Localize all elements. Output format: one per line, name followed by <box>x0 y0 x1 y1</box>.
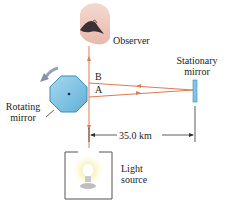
rotating-mirror-label: Rotating mirror <box>0 101 46 123</box>
stationary-mirror-label: Stationary mirror <box>168 55 226 77</box>
observer-label: Observer <box>113 35 150 46</box>
label-pointer <box>46 110 54 117</box>
point-a-label: A <box>95 84 102 95</box>
rotating-mirror-label-line2: mirror <box>0 112 46 123</box>
light-source-label: Light source <box>121 163 147 185</box>
light-source-label-line1: Light <box>121 163 147 174</box>
point-b-label: B <box>95 71 102 82</box>
stationary-mirror-label-line2: mirror <box>168 66 226 77</box>
light-bulb-icon <box>72 156 104 189</box>
distance-label: 35.0 km <box>119 130 152 141</box>
light-source-label-line2: source <box>121 174 147 185</box>
stationary-mirror-icon <box>193 80 197 102</box>
octagonal-mirror-icon <box>50 76 87 112</box>
stationary-mirror-label-line1: Stationary <box>168 55 226 66</box>
rotating-mirror-label-line1: Rotating <box>0 101 46 112</box>
eye-icon <box>80 3 110 44</box>
rotation-arrow-icon <box>40 68 58 82</box>
